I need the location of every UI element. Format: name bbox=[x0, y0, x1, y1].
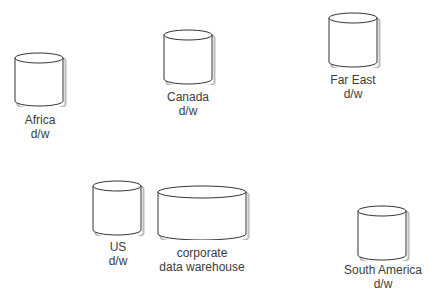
canada-dw-cylinder bbox=[162, 28, 216, 85]
far-east-dw-label: Far East d/w bbox=[318, 73, 388, 101]
canada-label-line2: d/w bbox=[155, 104, 221, 118]
south-america-dw-label: South America d/w bbox=[336, 263, 430, 291]
south-america-label-line1: South America bbox=[336, 263, 430, 277]
south-america-dw-cylinder bbox=[356, 204, 410, 261]
corporate-data-warehouse-cylinder bbox=[156, 185, 250, 240]
africa-label-line1: Africa bbox=[8, 113, 72, 127]
us-label-line1: US bbox=[90, 240, 146, 254]
us-dw-cylinder bbox=[91, 179, 145, 236]
far-east-label-line1: Far East bbox=[318, 73, 388, 87]
africa-dw-cylinder bbox=[13, 51, 67, 107]
corporate-data-warehouse-label: corporate data warehouse bbox=[154, 246, 250, 274]
canada-dw-label: Canada d/w bbox=[155, 90, 221, 118]
us-label-line2: d/w bbox=[90, 254, 146, 268]
africa-dw-label: Africa d/w bbox=[8, 113, 72, 141]
canada-label-line1: Canada bbox=[155, 90, 221, 104]
south-america-label-line2: d/w bbox=[336, 277, 430, 291]
us-dw-label: US d/w bbox=[90, 240, 146, 268]
far-east-dw-cylinder bbox=[327, 11, 381, 68]
africa-label-line2: d/w bbox=[8, 127, 72, 141]
corporate-label-line1: corporate bbox=[154, 246, 250, 260]
far-east-label-line2: d/w bbox=[318, 87, 388, 101]
corporate-label-line2: data warehouse bbox=[154, 260, 250, 274]
